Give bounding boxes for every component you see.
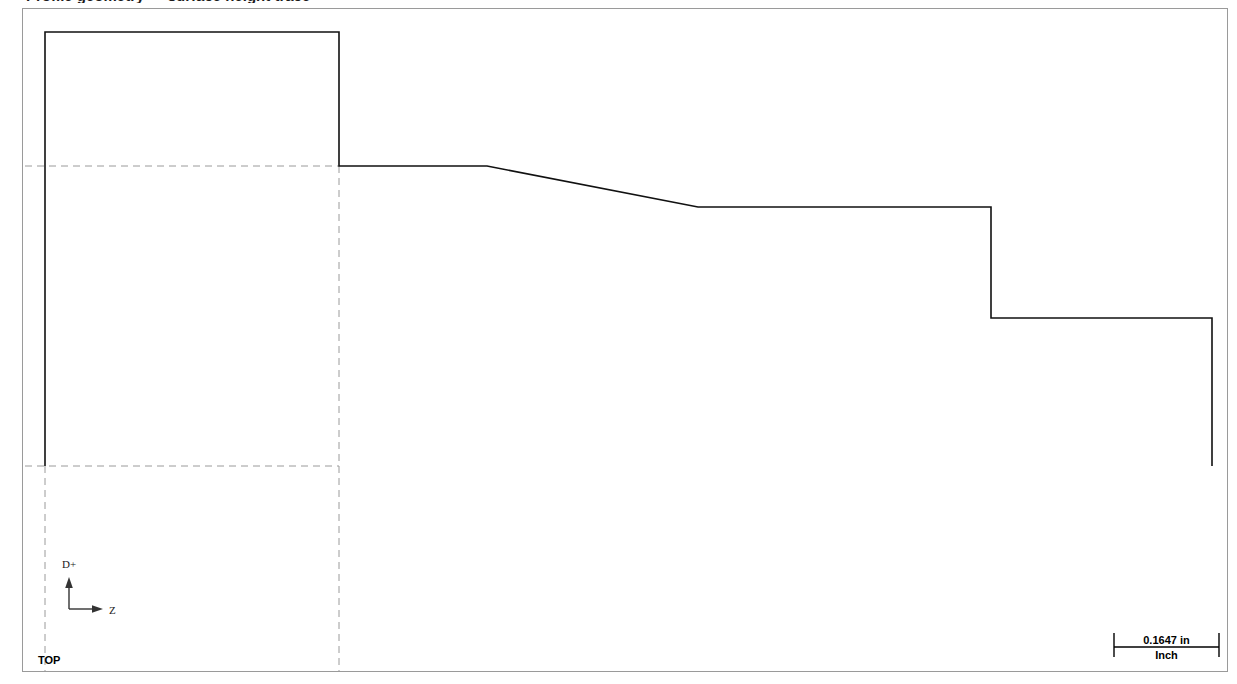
clipped-header-text: Profile geometry — surface height trace <box>0 0 1237 3</box>
scale-bar-unit-label: Inch <box>1155 649 1178 661</box>
plot-frame: D+ Z TOP 0.1647 in Inch <box>22 8 1228 672</box>
scale-bar-length-label: 0.1647 in <box>1143 634 1190 646</box>
profile-plot-canvas[interactable]: D+ Z TOP 0.1647 in Inch <box>23 9 1227 671</box>
profile-trace <box>45 32 1212 466</box>
profile-plot-window: Profile geometry — surface height trace … <box>0 0 1237 684</box>
orientation-triad: D+ Z <box>62 558 116 616</box>
reference-lines <box>25 166 339 671</box>
top-corner-label: TOP <box>38 654 60 666</box>
d-axis-label: D+ <box>62 558 76 570</box>
scale-bar: 0.1647 in Inch <box>1114 633 1219 661</box>
z-axis-arrowhead <box>92 605 103 613</box>
z-axis-label: Z <box>109 604 116 616</box>
d-axis-arrowhead <box>65 577 73 588</box>
